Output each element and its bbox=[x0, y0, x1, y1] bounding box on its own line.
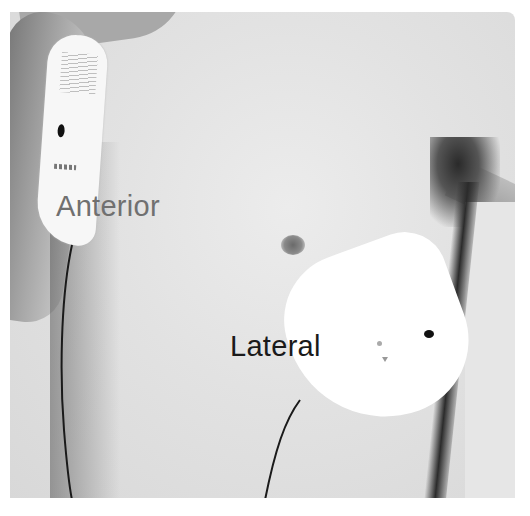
lateral-label: Lateral bbox=[230, 330, 321, 363]
lateral-cable bbox=[265, 400, 300, 500]
anterior-label: Anterior bbox=[56, 190, 160, 223]
bottom-margin bbox=[0, 498, 530, 516]
electrode-cables bbox=[0, 0, 530, 516]
anterior-cable bbox=[62, 245, 72, 500]
